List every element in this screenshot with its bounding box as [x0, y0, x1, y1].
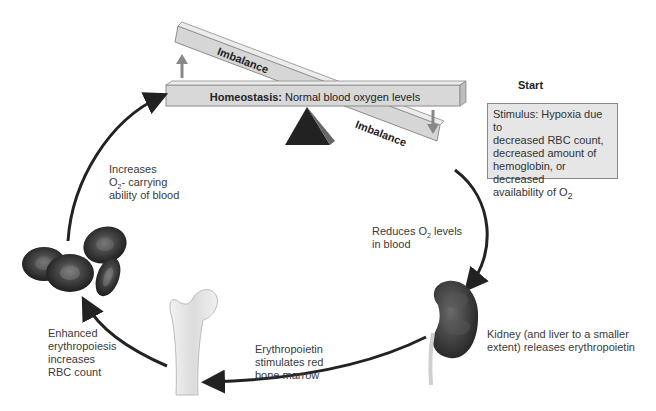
kidney [430, 281, 478, 385]
stimulus-line: Stimulus: Hypoxia due to [493, 108, 612, 134]
stimulus-line: availability of O2 [493, 186, 612, 203]
stimulus-line: decreased RBC count, [493, 134, 612, 147]
red-blood-cells [22, 221, 132, 300]
step-enhanced-erythropoiesis: Enhanced erythropoiesis increases RBC co… [48, 327, 116, 379]
stimulus-line: hemoglobin, or decreased [493, 160, 612, 186]
step-erythropoietin: Erythropoietin stimulates red bone marro… [255, 343, 323, 382]
homeostasis-text: Normal blood oxygen levels [282, 91, 420, 103]
fulcrum [285, 107, 330, 145]
stimulus-line: decreased amount of [493, 147, 612, 160]
step-increases-o2-carrying: Increases O2- carrying ability of blood [109, 163, 179, 202]
homeostasis-bold: Homeostasis: [210, 91, 282, 103]
bone-marrow-femur [170, 290, 218, 395]
step-reduces-o2: Reduces O2 levels in blood [372, 225, 462, 251]
up-arrow-icon [176, 54, 188, 78]
homeostasis-label: Homeostasis: Normal blood oxygen levels [170, 88, 460, 106]
stimulus-box: Stimulus: Hypoxia due to decreased RBC c… [487, 103, 618, 179]
start-label: Start [518, 79, 543, 91]
step-kidney: Kidney (and liver to a smaller extent) r… [487, 328, 635, 354]
